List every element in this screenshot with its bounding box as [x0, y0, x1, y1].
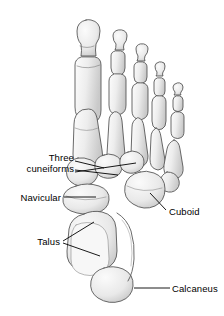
phalanx-proximal-4: [152, 96, 166, 130]
cuneiform-lateral: [120, 151, 144, 173]
phalanx-middle-4: [154, 78, 165, 97]
talus-bone: [67, 211, 117, 275]
label-three-cuneiforms: Threecuneiforms: [0, 152, 74, 174]
phalanx-middle-2: [111, 51, 125, 76]
phalanx-distal-2: [113, 30, 127, 50]
metatarsal-4: [150, 128, 165, 170]
foot-anatomy-figure: Threecuneiforms Navicular Talus Cuboid C…: [0, 0, 224, 316]
phalanx-middle-3: [134, 62, 147, 84]
navicular-bone: [63, 184, 109, 214]
label-navicular: Navicular: [0, 192, 61, 203]
label-calcaneus: Calcaneus: [172, 283, 218, 294]
phalanx-middle-5: [173, 96, 183, 112]
phalanx-distal-5: [173, 83, 183, 95]
phalanx-proximal-5: [171, 112, 184, 139]
phalanx-distal-4: [155, 62, 165, 76]
phalanx-distal-3: [136, 44, 148, 61]
phalanx-proximal-2: [109, 74, 126, 115]
phalanx-distal-1: [77, 20, 100, 56]
label-talus: Talus: [0, 236, 60, 247]
label-three-cuneiforms-line2: cuneiforms: [27, 163, 74, 174]
label-three-cuneiforms-line1: Three: [49, 152, 74, 163]
label-cuboid: Cuboid: [169, 206, 200, 217]
phalanx-proximal-3: [132, 83, 148, 120]
